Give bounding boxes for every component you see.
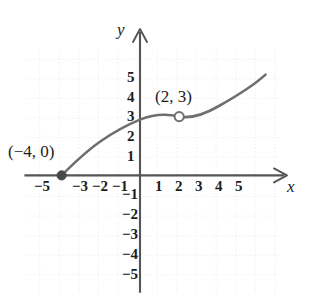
y-tick-4: 4 — [127, 90, 135, 105]
x-tick-1: 1 — [155, 179, 163, 194]
x-tick-4: 4 — [215, 179, 223, 194]
x-tick-2: 2 — [175, 179, 183, 194]
y-tick-minus5: −5 — [122, 267, 138, 282]
graph-figure: y x −5 −3 −2 −1 1 2 3 4 5 5 4 3 2 1 −1 −… — [0, 0, 310, 308]
x-tick-3: 3 — [195, 179, 203, 194]
closed-point-marker — [57, 171, 66, 180]
y-tick-3: 3 — [127, 109, 135, 124]
open-endpoint-annotation: (2, 3) — [155, 88, 192, 105]
y-tick-minus3: −3 — [122, 227, 138, 242]
x-tick-minus3: −3 — [72, 179, 88, 194]
x-axis-label: x — [287, 178, 295, 195]
x-tick-minus2: −2 — [92, 179, 108, 194]
y-tick-2: 2 — [127, 129, 135, 144]
y-axis-label: y — [117, 21, 125, 38]
y-tick-minus2: −2 — [122, 207, 138, 222]
y-tick-5: 5 — [127, 70, 135, 85]
grid-lines — [24, 48, 279, 293]
y-tick-minus1: −1 — [122, 187, 138, 202]
open-point-marker — [175, 112, 184, 121]
y-tick-1: 1 — [127, 149, 135, 164]
x-tick-5: 5 — [235, 179, 243, 194]
y-tick-minus4: −4 — [122, 247, 138, 262]
x-tick-minus5: −5 — [34, 179, 50, 194]
closed-endpoint-annotation: (−4, 0) — [8, 143, 54, 160]
